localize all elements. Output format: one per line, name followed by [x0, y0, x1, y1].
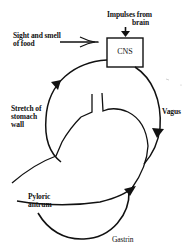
stretch-label: Stretch of stomach wall [11, 105, 41, 129]
impulses-label-line2: brain [107, 19, 149, 27]
pyloric-antrum-label: Pyloric antrum [28, 193, 52, 209]
cns-label: CNS [107, 48, 143, 56]
gastrin-loop [38, 191, 129, 239]
sight-label: Sight and smell of food [13, 32, 61, 48]
gastrin-arrowhead [124, 186, 136, 196]
impulses-arrow [121, 27, 130, 37]
stretch-label-line3: wall [11, 121, 41, 129]
gastrin-label: Gastrin [112, 236, 133, 244]
sight-label-line2: of food [13, 40, 61, 48]
vagus-arrowhead [152, 128, 164, 138]
diagram-canvas: Impulses from brain Sight and smell of f… [0, 0, 191, 250]
stretch-arrowhead [51, 80, 61, 90]
vagus-label: Vagus [162, 108, 181, 116]
stretch-loop [46, 60, 107, 162]
pyloric-label-line2: antrum [28, 201, 52, 209]
impulses-label: Impulses from brain [107, 11, 149, 27]
sight-arrow [60, 37, 99, 47]
